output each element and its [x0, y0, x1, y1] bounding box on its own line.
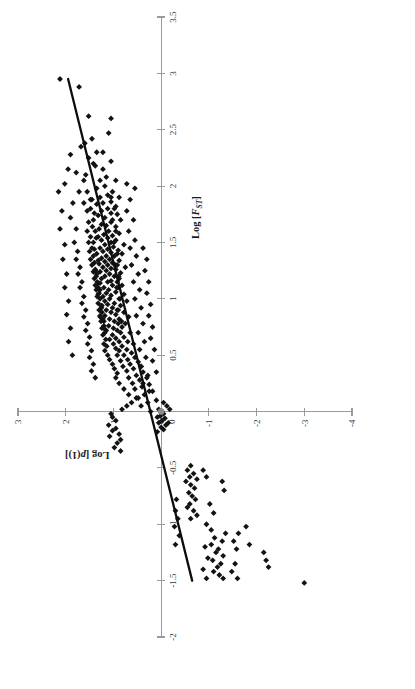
- data-point-marker: [108, 158, 114, 164]
- data-point-marker: [183, 479, 189, 485]
- data-point-marker: [135, 330, 141, 336]
- data-points-group: [56, 76, 308, 586]
- data-point-marker: [90, 217, 96, 223]
- data-point-marker: [69, 352, 75, 358]
- data-point-marker: [100, 200, 106, 206]
- data-point-marker: [133, 313, 139, 319]
- data-point-marker: [204, 575, 210, 581]
- data-point-marker: [102, 183, 108, 189]
- data-point-marker: [204, 521, 210, 527]
- data-point-marker: [133, 373, 139, 379]
- y-axis-tick-label: -1: [204, 420, 214, 428]
- data-point-marker: [148, 335, 154, 341]
- data-point-marker: [229, 569, 235, 575]
- data-point-marker: [207, 501, 213, 507]
- data-point-marker: [113, 375, 119, 381]
- data-point-marker: [84, 228, 90, 234]
- data-point-marker: [105, 206, 111, 212]
- data-point-marker: [129, 262, 135, 268]
- x-axis-tick-label: 0.5: [168, 349, 178, 361]
- scatter-plot-canvas: -2-1.5-1-0.50.511.522.533.53210-1-2-3-40…: [0, 0, 415, 689]
- data-point-marker: [187, 474, 193, 480]
- data-point-marker: [205, 555, 211, 561]
- data-point-marker: [231, 538, 237, 544]
- data-point-marker: [89, 348, 95, 354]
- data-point-marker: [263, 557, 269, 563]
- data-point-marker: [144, 290, 150, 296]
- data-point-marker: [83, 172, 89, 178]
- data-point-marker: [223, 530, 229, 536]
- data-point-marker: [81, 178, 87, 184]
- data-point-marker: [130, 380, 136, 386]
- data-point-marker: [126, 392, 132, 398]
- data-point-marker: [59, 208, 65, 214]
- data-point-marker: [131, 217, 137, 223]
- data-point-marker: [116, 194, 122, 200]
- data-point-marker: [119, 343, 125, 349]
- data-point-marker: [135, 271, 141, 277]
- data-point-marker: [70, 200, 76, 206]
- data-point-marker: [127, 197, 133, 203]
- data-point-marker: [188, 516, 194, 522]
- rotated-figure-container: -2-1.5-1-0.50.511.522.533.53210-1-2-3-40…: [0, 0, 415, 689]
- data-point-marker: [140, 245, 146, 251]
- data-point-marker: [146, 388, 152, 394]
- data-point-marker: [110, 233, 116, 239]
- data-point-marker: [220, 575, 226, 581]
- data-point-marker: [81, 314, 87, 320]
- data-point-marker: [202, 544, 208, 550]
- data-point-marker: [236, 530, 242, 536]
- data-point-marker: [100, 166, 106, 172]
- data-point-marker: [116, 380, 122, 386]
- data-point-marker: [235, 575, 241, 581]
- data-point-marker: [138, 305, 144, 311]
- data-point-marker: [200, 467, 206, 473]
- data-point-marker: [64, 312, 70, 318]
- data-point-marker: [210, 557, 216, 563]
- data-point-marker: [124, 403, 130, 409]
- data-point-marker: [153, 369, 159, 375]
- data-point-marker: [73, 256, 79, 262]
- x-axis-tick-label: 3.5: [168, 11, 178, 23]
- data-point-marker: [85, 341, 91, 347]
- data-point-marker: [118, 448, 124, 454]
- data-point-marker: [125, 339, 131, 345]
- data-point-marker: [76, 84, 82, 90]
- data-point-marker: [68, 325, 74, 331]
- data-point-marker: [86, 219, 92, 225]
- data-point-marker: [75, 271, 81, 277]
- data-point-marker: [137, 347, 143, 353]
- data-point-marker: [114, 370, 120, 376]
- data-point-marker: [107, 316, 113, 322]
- data-point-marker: [107, 433, 113, 439]
- data-point-marker: [84, 189, 90, 195]
- data-point-marker: [153, 397, 159, 403]
- data-point-marker: [131, 366, 137, 372]
- data-point-marker: [219, 538, 225, 544]
- data-point-marker: [132, 296, 138, 302]
- data-point-marker: [188, 482, 194, 488]
- data-point-marker: [173, 542, 179, 548]
- data-point-marker: [140, 321, 146, 327]
- data-point-marker: [221, 488, 227, 494]
- data-point-marker: [211, 510, 217, 516]
- data-point-marker: [102, 242, 108, 248]
- data-point-marker: [124, 368, 130, 374]
- x-axis-title: Log [FST]: [190, 196, 204, 239]
- data-point-marker: [137, 287, 143, 293]
- data-point-marker: [111, 445, 117, 451]
- data-point-marker: [118, 217, 124, 223]
- data-point-marker: [184, 467, 190, 473]
- data-point-marker: [146, 382, 152, 388]
- y-axis-tick-label: 3: [13, 419, 23, 424]
- data-point-marker: [65, 166, 71, 172]
- data-point-marker: [133, 253, 139, 259]
- data-point-marker: [261, 550, 267, 556]
- data-point-marker: [92, 375, 98, 381]
- data-point-marker: [86, 113, 92, 119]
- data-point-marker: [122, 264, 128, 270]
- data-point-marker: [146, 279, 152, 285]
- data-point-marker: [68, 215, 74, 221]
- data-point-marker: [62, 242, 68, 248]
- data-point-marker: [138, 403, 144, 409]
